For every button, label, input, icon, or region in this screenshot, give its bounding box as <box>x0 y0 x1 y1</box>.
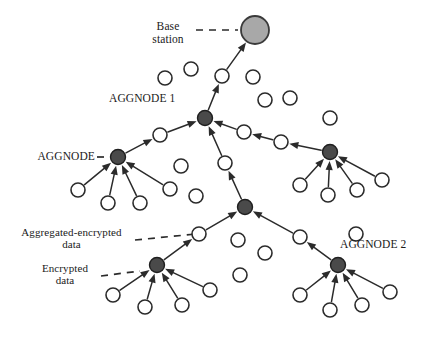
sensor-node[interactable] <box>203 283 217 297</box>
link-arrow <box>227 43 246 69</box>
link-line <box>259 214 293 233</box>
arrowhead-icon <box>252 133 262 140</box>
sensor-node[interactable] <box>138 300 152 314</box>
relay-node[interactable] <box>293 230 307 244</box>
sensor-node[interactable] <box>163 182 177 196</box>
link-line <box>344 159 375 176</box>
aggregator-node-aggnode_left[interactable] <box>111 150 126 165</box>
link-arrow <box>85 163 112 185</box>
arrowhead-icon <box>331 274 338 283</box>
sensor-node[interactable] <box>133 196 147 210</box>
link-arrow <box>206 212 237 230</box>
arrowhead-icon <box>238 43 246 52</box>
sensor-node[interactable] <box>321 188 335 202</box>
link-line <box>168 123 191 132</box>
relay-node[interactable] <box>218 156 232 170</box>
sensor-node[interactable] <box>293 178 307 192</box>
link-line <box>147 280 152 299</box>
relay-node[interactable] <box>237 125 251 139</box>
base-station-label-line1: Base <box>138 20 198 33</box>
link-arrow <box>126 162 163 185</box>
sensor-node[interactable] <box>258 93 272 107</box>
link-arrow <box>209 126 222 155</box>
sensor-node[interactable] <box>71 183 85 197</box>
link-arrow <box>289 142 321 150</box>
aggnode-1-label: AGGNODE 1 <box>109 92 175 105</box>
aggregator-node-aggnode_center[interactable] <box>238 200 253 215</box>
link-line <box>312 246 331 260</box>
sensor-node[interactable] <box>293 288 307 302</box>
encrypted-line1: Encrypted <box>30 262 100 274</box>
sensor-node[interactable] <box>174 159 188 173</box>
encrypted-leader <box>101 271 140 276</box>
arrowhead-icon <box>165 269 175 276</box>
sensor-node[interactable] <box>246 70 260 84</box>
link-arrow <box>126 139 152 153</box>
arrowhead-icon <box>212 84 219 94</box>
relay-node[interactable] <box>153 128 167 142</box>
sensor-node[interactable] <box>184 62 198 76</box>
relay-node[interactable] <box>274 135 288 149</box>
link-line <box>85 167 106 185</box>
sensor-node[interactable] <box>101 196 115 210</box>
link-arrow <box>162 273 178 298</box>
sensor-node[interactable] <box>158 71 172 85</box>
sensor-node[interactable] <box>323 111 337 125</box>
link-arrow <box>326 161 333 187</box>
base-station-node[interactable] <box>241 16 269 44</box>
link-line <box>331 280 335 301</box>
sensor-node[interactable] <box>233 268 247 282</box>
arrowhead-icon <box>187 121 197 128</box>
aggregator-node-aggnode1[interactable] <box>198 111 213 126</box>
sensor-node[interactable] <box>323 303 337 317</box>
aggregator-node-aggnode_right[interactable] <box>323 145 338 160</box>
sensor-node[interactable] <box>383 285 397 299</box>
link-line <box>206 215 231 230</box>
link-arrow <box>338 156 375 176</box>
link-arrow <box>343 273 358 298</box>
link-line <box>227 48 242 69</box>
link-arrow <box>253 211 293 233</box>
link-line <box>306 163 320 178</box>
arrowhead-icon <box>126 162 136 170</box>
aggregator-node-aggnode2[interactable] <box>331 258 346 273</box>
sensor-node[interactable] <box>283 91 297 105</box>
aggnode-2-label: AGGNODE 2 <box>340 238 406 251</box>
sensor-node[interactable] <box>231 233 245 247</box>
sensor-node[interactable] <box>189 189 203 203</box>
arrowhead-icon <box>213 121 223 128</box>
sensor-node[interactable] <box>106 288 120 302</box>
link-arrow <box>331 274 338 302</box>
sensor-node[interactable] <box>258 246 272 260</box>
link-line <box>110 172 115 195</box>
link-arrow <box>208 84 218 110</box>
sensor-node[interactable] <box>175 298 189 312</box>
link-line <box>231 177 241 199</box>
aggregator-node-aggnode_bottom_left[interactable] <box>150 258 165 273</box>
link-arrow <box>252 133 273 140</box>
relay-node[interactable] <box>192 227 206 241</box>
network-aggregation-diagram: Base station AGGNODE 1 AGGNODE AGGNODE 2… <box>0 0 422 339</box>
link-arrow <box>165 269 202 287</box>
link-line <box>125 171 137 195</box>
arrowhead-icon <box>122 165 129 175</box>
sensor-node[interactable] <box>350 183 364 197</box>
arrowhead-icon <box>343 273 351 283</box>
arrowhead-icon <box>253 211 263 218</box>
sensor-node[interactable] <box>375 173 389 187</box>
link-line <box>131 165 163 184</box>
arrowhead-icon <box>140 270 149 278</box>
arrowhead-icon <box>209 126 216 136</box>
link-line <box>165 278 177 298</box>
link-arrow <box>346 269 382 288</box>
link-arrow <box>147 274 155 299</box>
arrowhead-icon <box>228 212 238 220</box>
aggregated-encrypted-leader <box>135 234 196 240</box>
link-line <box>164 243 187 260</box>
link-line <box>307 275 326 290</box>
relay-node[interactable] <box>215 69 229 83</box>
arrowhead-icon <box>111 166 118 176</box>
arrowhead-icon <box>346 269 356 276</box>
sensor-node[interactable] <box>355 298 369 312</box>
base-station-label: Base station <box>138 20 198 46</box>
